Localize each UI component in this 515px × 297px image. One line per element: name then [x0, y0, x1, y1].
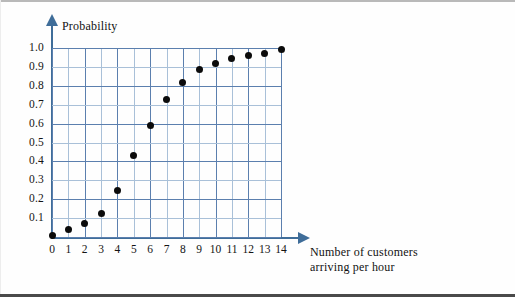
- gridline-horizontal: [52, 218, 281, 219]
- data-point: [114, 187, 121, 194]
- data-point: [81, 220, 88, 227]
- data-point: [212, 60, 219, 67]
- data-point: [278, 46, 285, 53]
- gridline-horizontal: [52, 180, 281, 181]
- gridline-vertical: [281, 48, 282, 237]
- y-axis-tick-label: 0.2: [0, 192, 44, 204]
- probability-cdf-chart: Probability Number of customers arriving…: [0, 0, 515, 297]
- data-point: [261, 50, 268, 57]
- gridline-horizontal: [52, 105, 281, 106]
- data-point: [98, 210, 105, 217]
- data-point: [163, 96, 170, 103]
- x-axis-title: Number of customers arriving per hour: [310, 245, 418, 275]
- x-axis-tick-label: 14: [271, 243, 291, 255]
- data-point: [196, 66, 203, 73]
- y-axis-tick-label: 0.8: [0, 79, 44, 91]
- gridline-horizontal: [52, 86, 281, 87]
- x-axis-arrowhead-icon: [298, 232, 310, 244]
- data-point: [179, 79, 186, 86]
- data-point: [49, 232, 56, 239]
- y-axis-tick-label: 0.4: [0, 154, 44, 166]
- data-point: [65, 226, 72, 233]
- gridline-horizontal: [52, 124, 281, 125]
- x-axis-title-line-1: Number of customers: [310, 245, 418, 260]
- y-axis-tick-label: 0.9: [0, 60, 44, 72]
- gridline-horizontal: [52, 199, 281, 200]
- y-axis-tick-label: 0.7: [0, 98, 44, 110]
- data-point: [228, 55, 235, 62]
- data-point: [147, 122, 154, 129]
- y-axis-tick-label: 0.5: [0, 136, 44, 148]
- y-axis-tick-label: 1.0: [0, 41, 44, 53]
- gridline-horizontal: [52, 48, 281, 49]
- y-axis-title: Probability: [62, 19, 118, 34]
- data-point: [130, 152, 137, 159]
- y-axis-tick-label: 0.6: [0, 117, 44, 129]
- y-axis-tick-label: 0.1: [0, 211, 44, 223]
- gridline-horizontal: [52, 161, 281, 162]
- gridline-horizontal: [52, 237, 281, 238]
- y-axis-tick-label: 0.3: [0, 173, 44, 185]
- gridline-horizontal: [52, 67, 281, 68]
- gridline-horizontal: [52, 143, 281, 144]
- x-axis-title-line-2: arriving per hour: [310, 260, 418, 275]
- data-point: [245, 52, 252, 59]
- plot-area: [52, 48, 281, 237]
